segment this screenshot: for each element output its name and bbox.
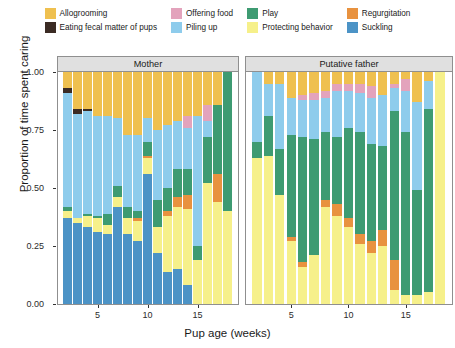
stacked-bar[interactable] xyxy=(332,72,341,304)
bar-segment xyxy=(332,84,341,91)
bar-segment xyxy=(412,72,421,102)
bar-segment xyxy=(298,267,307,304)
legend-item[interactable]: Allogrooming xyxy=(45,8,157,19)
legend-item[interactable]: Protecting behavior xyxy=(247,22,333,33)
legend-swatch-icon xyxy=(347,8,358,19)
bar-segment xyxy=(332,91,341,137)
stacked-bar[interactable] xyxy=(83,72,91,304)
bar-segment xyxy=(287,241,296,304)
y-axis-tick-mark xyxy=(53,246,56,247)
stacked-bar[interactable] xyxy=(401,72,410,304)
stacked-bar[interactable] xyxy=(173,72,181,304)
legend-item[interactable]: Suckling xyxy=(347,22,411,33)
bar-segment xyxy=(83,216,91,228)
legend-swatch-icon xyxy=(171,8,182,19)
bar-segment xyxy=(123,135,131,207)
bar-segment xyxy=(424,81,433,109)
stacked-bar[interactable] xyxy=(287,72,296,304)
bar-segment xyxy=(193,246,201,260)
bar-segment xyxy=(287,72,296,98)
y-axis-tick-label: 0.00 xyxy=(26,299,44,309)
bar-segment xyxy=(424,292,433,304)
bar-segment xyxy=(173,72,181,121)
stacked-bar[interactable] xyxy=(390,72,399,304)
legend-swatch-icon xyxy=(171,22,182,33)
stacked-bar[interactable] xyxy=(298,72,307,304)
bar-segment xyxy=(355,244,364,304)
bar-segment xyxy=(390,72,399,84)
stacked-bar[interactable] xyxy=(321,72,330,304)
bar-segment xyxy=(113,186,121,198)
stacked-bar[interactable] xyxy=(309,72,318,304)
stacked-bar[interactable] xyxy=(153,72,161,304)
legend-item[interactable]: Piling up xyxy=(171,22,233,33)
bar-segment xyxy=(143,158,151,174)
stacked-bar[interactable] xyxy=(133,72,141,304)
bar-segment xyxy=(123,234,131,304)
stacked-bar[interactable] xyxy=(103,72,111,304)
bar-segment xyxy=(401,295,410,304)
stacked-bar[interactable] xyxy=(378,72,387,304)
stacked-bar[interactable] xyxy=(163,72,171,304)
stacked-bar[interactable] xyxy=(435,72,444,304)
bar-segment xyxy=(123,207,131,219)
stacked-bar[interactable] xyxy=(355,72,364,304)
bar-segment xyxy=(355,132,364,234)
stacked-bar[interactable] xyxy=(344,72,353,304)
x-axis-tick-label: 5 xyxy=(289,310,294,320)
bar-segment xyxy=(223,72,231,211)
bar-segment xyxy=(355,234,364,243)
stacked-bar[interactable] xyxy=(193,72,201,304)
bar-segment xyxy=(213,202,221,304)
bar-segment xyxy=(321,132,330,199)
stacked-bar[interactable] xyxy=(264,72,273,304)
bar-segment xyxy=(93,232,101,304)
stacked-bar[interactable] xyxy=(223,72,231,304)
bar-segment xyxy=(173,169,181,197)
stacked-bar[interactable] xyxy=(123,72,131,304)
stacked-bar[interactable] xyxy=(93,72,101,304)
bar-segment xyxy=(367,241,376,253)
bar-segment xyxy=(183,209,191,286)
legend-item[interactable]: Offering food xyxy=(171,8,233,19)
stacked-bar[interactable] xyxy=(367,72,376,304)
bar-segment xyxy=(298,72,307,95)
bar-segment xyxy=(367,144,376,241)
bar-segment xyxy=(143,118,151,141)
legend-item-label: Regurgitation xyxy=(362,8,411,19)
bar-segment xyxy=(252,72,261,142)
bar-segment xyxy=(103,72,111,116)
stacked-bar[interactable] xyxy=(412,72,421,304)
bar-segment xyxy=(412,102,421,190)
legend-item[interactable]: Eating fecal matter of pups xyxy=(45,22,157,33)
bar-segment xyxy=(264,156,273,304)
chart-panel: Putative father xyxy=(245,56,453,305)
bar-segment xyxy=(113,197,121,206)
bar-segment xyxy=(133,72,141,135)
bar-segment xyxy=(332,204,341,216)
stacked-bar[interactable] xyxy=(113,72,121,304)
panel-strip-label: Putative father xyxy=(246,57,452,72)
stacked-bar[interactable] xyxy=(252,72,261,304)
stacked-bar[interactable] xyxy=(424,72,433,304)
bar-segment xyxy=(213,174,221,202)
stacked-bar[interactable] xyxy=(213,72,221,304)
stacked-bar[interactable] xyxy=(203,72,211,304)
bar-segment xyxy=(143,174,151,304)
legend-item[interactable]: Regurgitation xyxy=(347,8,411,19)
stacked-bar[interactable] xyxy=(275,72,284,304)
bar-segment xyxy=(93,116,101,216)
plot-area xyxy=(246,72,452,304)
stacked-bar[interactable] xyxy=(63,72,71,304)
y-axis-title: Proportion of time spent caring xyxy=(18,0,30,234)
stacked-bar[interactable] xyxy=(143,72,151,304)
bar-segment xyxy=(264,84,273,116)
bar-segment xyxy=(163,272,171,304)
stacked-bar[interactable] xyxy=(183,72,191,304)
stacked-bar[interactable] xyxy=(73,72,81,304)
bar-segment xyxy=(93,218,101,232)
bar-segment xyxy=(287,98,296,135)
bar-segment xyxy=(321,98,330,133)
legend-item[interactable]: Play xyxy=(247,8,333,19)
bar-segment xyxy=(63,218,71,304)
